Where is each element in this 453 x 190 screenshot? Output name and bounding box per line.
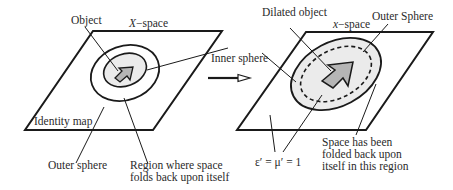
dilated-object-label: Dilated object — [262, 6, 328, 19]
arrowhead-icon — [238, 75, 250, 82]
region-label-line2: folds back upon itself — [130, 171, 229, 184]
transformation-diagram: Object X−space Identity map Outer sphere… — [0, 0, 453, 190]
outer-sphere-label-left: Outer sphere — [48, 159, 107, 172]
outer-sphere-label-right: Outer Sphere — [372, 10, 433, 23]
material-params-label: ε′ = μ′ = 1 — [255, 156, 301, 169]
inner-sphere-label: Inner sphere — [211, 52, 268, 65]
left-panel: Object X−space Identity map Outer sphere… — [25, 14, 229, 184]
object-label: Object — [71, 14, 102, 27]
folded-label-line3: itself in this region — [322, 160, 409, 173]
identity-map-label: Identity map — [34, 115, 93, 128]
right-panel: Dilated object x−space Outer Sphere Inne… — [211, 6, 433, 173]
x-space-label: X−space — [128, 17, 168, 30]
mapping-arrow — [208, 75, 250, 82]
x-space-label-right: x−space — [332, 18, 370, 31]
